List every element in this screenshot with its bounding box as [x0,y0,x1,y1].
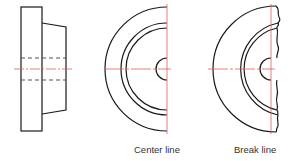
taper-outline [42,23,66,114]
break-line-bottom [276,80,278,132]
break-line-top [276,6,280,58]
center-line-label: Center line [134,144,180,155]
break-line-label: Break line [234,144,276,155]
drawing-canvas [0,0,298,161]
center-line-view [104,4,171,134]
break-line-view [208,4,280,134]
side-view [14,7,73,131]
